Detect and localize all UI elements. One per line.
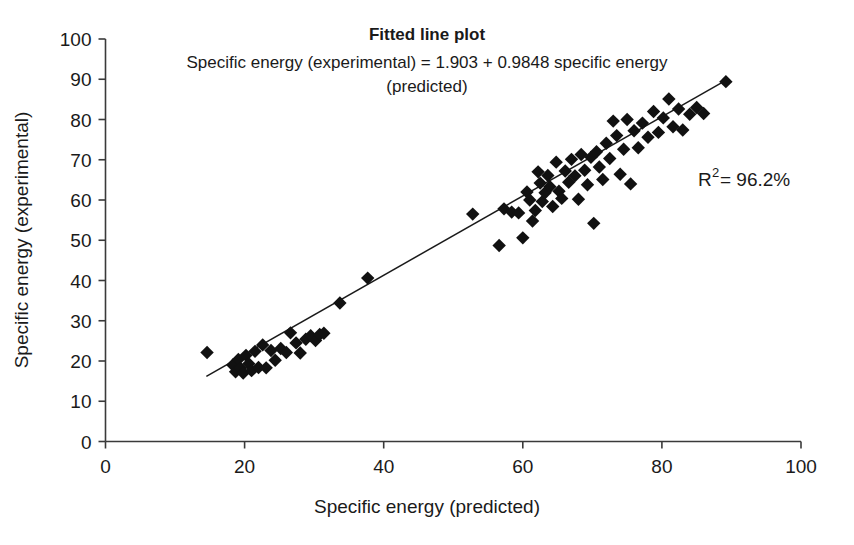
data-point-marker	[200, 346, 213, 359]
data-point-marker	[526, 214, 539, 227]
x-axis-ticks: 020406080100	[100, 442, 817, 477]
r-squared-symbol: R	[698, 169, 712, 190]
data-point-marker	[647, 105, 660, 118]
y-tick-label: 10	[70, 391, 91, 412]
data-point-marker	[624, 177, 637, 190]
regression-line-group	[206, 79, 728, 376]
data-point-marker	[466, 207, 479, 220]
data-point-marker	[613, 168, 626, 181]
y-tick-label: 90	[70, 69, 91, 90]
y-tick-label: 60	[70, 190, 91, 211]
data-point-marker	[581, 178, 594, 191]
data-point-marker	[603, 152, 616, 165]
data-point-marker	[587, 217, 600, 230]
data-point-marker	[516, 231, 529, 244]
r-squared-exponent: 2	[712, 165, 719, 180]
data-point-marker	[662, 92, 675, 105]
data-point-marker	[549, 155, 562, 168]
data-point-marker	[719, 75, 732, 88]
fitted-line-plot-figure: Fitted line plot Specific energy (experi…	[0, 0, 854, 545]
data-point-marker	[620, 113, 633, 126]
x-tick-label: 20	[234, 456, 255, 477]
y-tick-label: 20	[70, 351, 91, 372]
y-tick-label: 30	[70, 311, 91, 332]
r-squared-annotation: R 2 = 96.2%	[698, 165, 790, 190]
data-point-marker	[572, 192, 585, 205]
data-point-marker	[593, 160, 606, 173]
regression-line	[206, 79, 728, 376]
y-tick-label: 80	[70, 110, 91, 131]
data-point-marker	[259, 361, 272, 374]
chart-subtitle-line-1: Specific energy (experimental) = 1.903 +…	[187, 53, 668, 72]
x-tick-label: 60	[512, 456, 533, 477]
data-point-marker	[607, 114, 620, 127]
x-tick-label: 40	[373, 456, 394, 477]
data-point-marker	[596, 173, 609, 186]
data-point-marker	[361, 271, 374, 284]
y-tick-label: 50	[70, 230, 91, 251]
chart-canvas: Fitted line plot Specific energy (experi…	[0, 0, 854, 545]
x-tick-label: 0	[100, 456, 111, 477]
y-tick-label: 70	[70, 150, 91, 171]
x-tick-label: 80	[651, 456, 672, 477]
chart-subtitle-line-2: (predicted)	[386, 77, 467, 96]
x-axis-title: Specific energy (predicted)	[314, 496, 540, 517]
chart-title: Fitted line plot	[369, 25, 485, 44]
y-tick-label: 40	[70, 271, 91, 292]
x-tick-label: 100	[785, 456, 817, 477]
y-axis-title: Specific energy (experimental)	[11, 112, 32, 369]
data-point-marker	[492, 239, 505, 252]
r-squared-value: = 96.2%	[720, 169, 790, 190]
data-point-marker	[617, 143, 630, 156]
y-tick-label: 100	[60, 29, 92, 50]
data-point-marker	[632, 141, 645, 154]
y-tick-label: 0	[81, 432, 92, 453]
y-axis-ticks: 0102030405060708090100	[60, 29, 106, 453]
data-point-marker	[600, 137, 613, 150]
